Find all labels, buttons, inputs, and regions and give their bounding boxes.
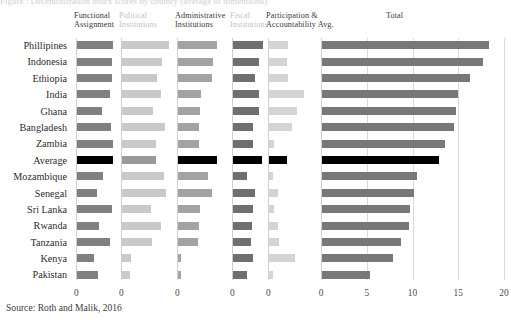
source-note: Source: Roth and Malik, 2016 [6, 302, 122, 313]
country-label-pakistan: Pakistan [0, 267, 72, 283]
bar-administrative_institutions-ghana [178, 107, 200, 115]
bar-total-bangladesh [322, 123, 454, 131]
bar-political_institutions-rwanda [122, 222, 161, 230]
bar-political_institutions-senegal [122, 189, 166, 197]
bar-political_institutions-ghana [122, 107, 153, 115]
bar-administrative_institutions-phillipines [178, 41, 217, 49]
bar-functional_assignment-indonesia [77, 58, 112, 66]
bar-row [177, 235, 237, 251]
bar-row [268, 38, 328, 54]
bar-row [321, 153, 511, 169]
bar-fiscal_institutions-kenya [233, 254, 253, 262]
country-label-ghana: Ghana [0, 104, 72, 120]
bar-total-senegal [322, 189, 414, 197]
bar-fiscal_institutions-india [233, 90, 259, 98]
bar-fiscal_institutions-zambia [233, 140, 253, 148]
bar-participation_accountability-mozambique [269, 172, 273, 180]
bar-row [177, 267, 237, 283]
country-label-average: Average [0, 153, 72, 169]
axis-tick-functional_assignment-0: 0 [74, 288, 79, 298]
bar-participation_accountability-kenya [269, 254, 295, 262]
bar-total-phillipines [322, 41, 489, 49]
column-header-line1: Participation & [266, 11, 318, 20]
bar-administrative_institutions-rwanda [178, 222, 199, 230]
bar-total-rwanda [322, 222, 409, 230]
country-axis-labels: PhillipinesIndonesiaEthiopiaIndiaGhanaBa… [0, 38, 72, 284]
column-header-line1: Functional [74, 11, 110, 20]
bar-political_institutions-indonesia [122, 58, 162, 66]
bar-row [321, 87, 511, 103]
bar-total-ethiopia [322, 74, 470, 82]
bar-functional_assignment-sri-lanka [77, 205, 112, 213]
column-header-fiscal_institutions: FiscalInstitutions [230, 11, 268, 30]
column-header-line2: Assignment [74, 20, 114, 29]
bar-functional_assignment-mozambique [77, 172, 103, 180]
bar-row [121, 218, 181, 234]
bar-functional_assignment-rwanda [77, 222, 99, 230]
bar-row [121, 38, 181, 54]
bar-row [177, 251, 237, 267]
bar-participation_accountability-zambia [269, 140, 274, 148]
bar-row [321, 251, 511, 267]
bar-row [321, 136, 511, 152]
bar-fiscal_institutions-ethiopia [233, 74, 255, 82]
bar-row [121, 104, 181, 120]
bar-political_institutions-zambia [122, 140, 156, 148]
bar-row [121, 71, 181, 87]
bar-functional_assignment-phillipines [77, 41, 113, 49]
bar-functional_assignment-pakistan [77, 271, 98, 279]
bar-administrative_institutions-kenya [178, 254, 181, 262]
bar-participation_accountability-phillipines [269, 41, 288, 49]
bar-row [121, 235, 181, 251]
column-header-political_institutions: PoliticalInstitutions [119, 11, 157, 30]
bar-row [121, 267, 181, 283]
country-label-bangladesh: Bangladesh [0, 120, 72, 136]
bar-row [321, 54, 511, 70]
bar-row [321, 169, 511, 185]
bar-political_institutions-mozambique [122, 172, 164, 180]
bar-administrative_institutions-tanzania [178, 238, 198, 246]
bar-row [177, 202, 237, 218]
axis-tick-total-5: 5 [364, 288, 369, 298]
country-label-india: India [0, 87, 72, 103]
bar-administrative_institutions-mozambique [178, 172, 208, 180]
axis-tick-total-10: 10 [408, 288, 417, 298]
bar-functional_assignment-kenya [77, 254, 94, 262]
bar-row [268, 87, 328, 103]
country-label-indonesia: Indonesia [0, 54, 72, 70]
bar-participation_accountability-india [269, 90, 304, 98]
panel-political_institutions [121, 38, 181, 284]
bar-participation_accountability-rwanda [269, 222, 278, 230]
bar-political_institutions-sri-lanka [122, 205, 151, 213]
bar-total-ghana [322, 107, 456, 115]
axis-tick-administrative_institutions-0: 0 [175, 288, 180, 298]
bar-row [321, 186, 511, 202]
bar-administrative_institutions-india [178, 90, 201, 98]
bar-row [177, 54, 237, 70]
bar-fiscal_institutions-mozambique [233, 172, 247, 180]
bar-participation_accountability-ethiopia [269, 74, 288, 82]
bar-administrative_institutions-average [178, 156, 217, 164]
bar-row [268, 71, 328, 87]
bars-administrative_institutions [177, 38, 237, 284]
bar-row [268, 104, 328, 120]
bar-political_institutions-tanzania [122, 238, 152, 246]
bar-administrative_institutions-indonesia [178, 58, 213, 66]
bar-row [177, 136, 237, 152]
decentralization-bar-chart-figure: Figure : Decentralization index scores b… [0, 0, 511, 322]
bar-functional_assignment-india [77, 90, 110, 98]
bar-total-pakistan [322, 271, 370, 279]
bar-row [177, 153, 237, 169]
bar-row [121, 120, 181, 136]
bar-total-indonesia [322, 58, 483, 66]
bar-fiscal_institutions-average [233, 156, 262, 164]
bar-functional_assignment-zambia [77, 140, 113, 148]
bar-administrative_institutions-sri-lanka [178, 205, 200, 213]
bar-administrative_institutions-zambia [178, 140, 199, 148]
column-header-line1: Fiscal [230, 11, 250, 20]
bars-participation_accountability [268, 38, 328, 284]
bar-functional_assignment-senegal [77, 189, 97, 197]
bar-row [268, 153, 328, 169]
column-header-line2: Institutions [175, 20, 226, 29]
bar-row [121, 169, 181, 185]
